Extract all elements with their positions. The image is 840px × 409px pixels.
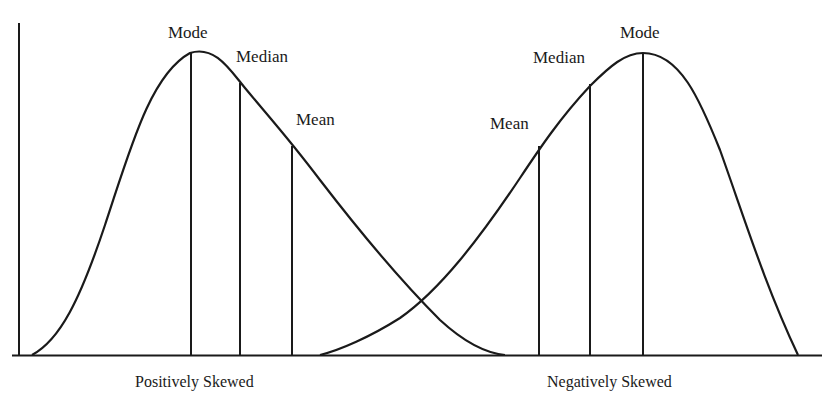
negative-skew-caption: Negatively Skewed: [547, 373, 672, 391]
skewness-diagram: Mode Median Mean Mode Median Mean Positi…: [0, 0, 840, 409]
negative-skew-curve: [320, 53, 798, 355]
positive-skew-caption: Positively Skewed: [135, 373, 254, 391]
negative-mode-label: Mode: [620, 23, 660, 42]
negative-mean-label: Mean: [490, 114, 529, 133]
positive-skew-curve: [32, 51, 505, 355]
negative-median-label: Median: [533, 48, 585, 67]
positive-median-label: Median: [236, 47, 288, 66]
positive-mode-label: Mode: [168, 23, 208, 42]
positive-mean-label: Mean: [296, 110, 335, 129]
